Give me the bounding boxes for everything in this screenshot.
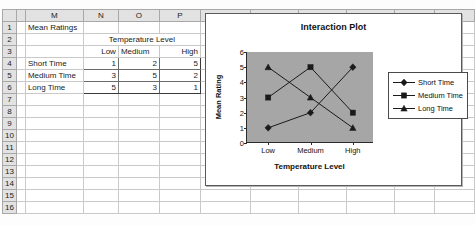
cell-O5[interactable]: 5 — [118, 70, 159, 82]
cell-N13[interactable] — [83, 166, 118, 178]
cell-P4[interactable]: 5 — [159, 58, 200, 70]
cell-L5[interactable] — [16, 70, 25, 82]
cell-V15[interactable] — [434, 190, 474, 202]
cell-L13[interactable] — [16, 166, 25, 178]
cell-L12[interactable] — [16, 154, 25, 166]
cell-P10[interactable] — [159, 130, 200, 142]
row-header-13[interactable]: 13 — [3, 166, 17, 178]
cell-O1[interactable] — [118, 22, 159, 34]
cell-N2-temperature-level[interactable]: Temperature Level — [83, 34, 200, 46]
legend-item[interactable]: Long Time — [391, 102, 463, 115]
row-header-16[interactable]: 16 — [3, 202, 17, 214]
cell-T16[interactable] — [346, 202, 394, 214]
cell-M13[interactable] — [25, 166, 83, 178]
cell-O3-medium[interactable]: Medium — [118, 46, 159, 58]
cell-P14[interactable] — [159, 178, 200, 190]
cell-P1[interactable] — [159, 22, 200, 34]
cell-M11[interactable] — [25, 142, 83, 154]
column-header-O[interactable]: O — [118, 10, 159, 22]
cell-U15[interactable] — [394, 190, 434, 202]
cell-M6-long-time[interactable]: Long Time — [25, 82, 83, 94]
row-header-15[interactable]: 15 — [3, 190, 17, 202]
row-header-11[interactable]: 11 — [3, 142, 17, 154]
cell-N6[interactable]: 5 — [83, 82, 118, 94]
column-header-M[interactable]: M — [25, 10, 83, 22]
cell-V16[interactable] — [434, 202, 474, 214]
row-header-10[interactable]: 10 — [3, 130, 17, 142]
cell-N12[interactable] — [83, 154, 118, 166]
cell-M15[interactable] — [25, 190, 83, 202]
cell-N9[interactable] — [83, 118, 118, 130]
cell-M9[interactable] — [25, 118, 83, 130]
cell-L7[interactable] — [16, 94, 25, 106]
cell-N14[interactable] — [83, 178, 118, 190]
cell-N16[interactable] — [83, 202, 118, 214]
cell-T15[interactable] — [346, 190, 394, 202]
row-header-5[interactable]: 5 — [3, 70, 17, 82]
row-header-6[interactable]: 6 — [3, 82, 17, 94]
cell-L10[interactable] — [16, 130, 25, 142]
cell-P11[interactable] — [159, 142, 200, 154]
row-header-9[interactable]: 9 — [3, 118, 17, 130]
cell-L2[interactable] — [16, 34, 25, 46]
cell-N7[interactable] — [83, 94, 118, 106]
select-all-corner[interactable] — [3, 10, 17, 22]
legend-item[interactable]: Medium Time — [391, 89, 463, 102]
cell-M1-mean-ratings[interactable]: Mean Ratings — [25, 22, 83, 34]
cell-P7[interactable] — [159, 94, 200, 106]
cell-L1[interactable] — [16, 22, 25, 34]
cell-P13[interactable] — [159, 166, 200, 178]
cell-S16[interactable] — [298, 202, 346, 214]
cell-L9[interactable] — [16, 118, 25, 130]
cell-M5-medium-time[interactable]: Medium Time — [25, 70, 83, 82]
cell-M12[interactable] — [25, 154, 83, 166]
cell-P5[interactable]: 2 — [159, 70, 200, 82]
cell-P16[interactable] — [159, 202, 200, 214]
cell-P3-high[interactable]: High — [159, 46, 200, 58]
cell-U16[interactable] — [394, 202, 434, 214]
cell-N10[interactable] — [83, 130, 118, 142]
cell-P12[interactable] — [159, 154, 200, 166]
column-header-L[interactable] — [16, 10, 25, 22]
cell-L16[interactable] — [16, 202, 25, 214]
cell-N8[interactable] — [83, 106, 118, 118]
chart-legend[interactable]: Short TimeMedium TimeLong Time — [388, 72, 468, 119]
cell-N1[interactable] — [83, 22, 118, 34]
cell-P9[interactable] — [159, 118, 200, 130]
row-header-2[interactable]: 2 — [3, 34, 17, 46]
cell-P15[interactable] — [159, 190, 200, 202]
cell-R16[interactable] — [250, 202, 298, 214]
cell-O9[interactable] — [118, 118, 159, 130]
cell-Q16[interactable] — [200, 202, 250, 214]
cell-O11[interactable] — [118, 142, 159, 154]
cell-L14[interactable] — [16, 178, 25, 190]
cell-L15[interactable] — [16, 190, 25, 202]
column-header-P[interactable]: P — [159, 10, 200, 22]
row-header-14[interactable]: 14 — [3, 178, 17, 190]
cell-P8[interactable] — [159, 106, 200, 118]
cell-M8[interactable] — [25, 106, 83, 118]
embedded-chart-object[interactable]: Interaction Plot Mean Rating 0123456LowM… — [205, 13, 462, 186]
cell-O8[interactable] — [118, 106, 159, 118]
row-header-8[interactable]: 8 — [3, 106, 17, 118]
cell-L8[interactable] — [16, 106, 25, 118]
cell-M16[interactable] — [25, 202, 83, 214]
cell-O7[interactable] — [118, 94, 159, 106]
cell-O14[interactable] — [118, 178, 159, 190]
cell-P6[interactable]: 1 — [159, 82, 200, 94]
cell-L11[interactable] — [16, 142, 25, 154]
cell-S15[interactable] — [298, 190, 346, 202]
legend-item[interactable]: Short Time — [391, 76, 463, 89]
column-header-N[interactable]: N — [83, 10, 118, 22]
row-header-7[interactable]: 7 — [3, 94, 17, 106]
cell-N5[interactable]: 3 — [83, 70, 118, 82]
cell-L3[interactable] — [16, 46, 25, 58]
row-header-4[interactable]: 4 — [3, 58, 17, 70]
cell-M10[interactable] — [25, 130, 83, 142]
cell-L6[interactable] — [16, 82, 25, 94]
cell-O12[interactable] — [118, 154, 159, 166]
cell-Q15[interactable] — [200, 190, 250, 202]
row-header-3[interactable]: 3 — [3, 46, 17, 58]
cell-M2[interactable] — [25, 34, 83, 46]
cell-M14[interactable] — [25, 178, 83, 190]
